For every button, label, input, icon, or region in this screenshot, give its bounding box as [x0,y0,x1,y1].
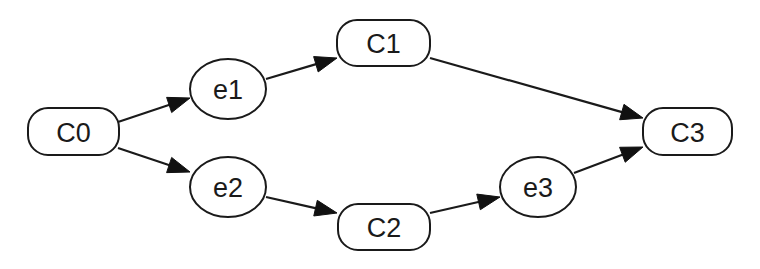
edge-c1-to-c3 [430,58,643,120]
node-c1: C1 [337,20,430,66]
edge-e2-to-c2 [266,197,337,216]
edge-c2-to-e3 [430,194,500,213]
edge-line [118,148,171,166]
node-c3: C3 [643,108,732,155]
arrowhead-icon [620,104,643,119]
edge-line [574,154,624,173]
edge-line [118,104,171,122]
edge-line [266,64,318,79]
node-e3: e3 [500,157,576,217]
edge-c0-to-e1 [118,97,190,122]
arrowhead-icon [167,97,190,112]
node-label: e3 [523,173,553,203]
nodes-layer: C0e1e2C1C2e3C3 [28,20,732,250]
node-label: C2 [367,213,402,243]
node-c0: C0 [28,108,119,155]
node-c2: C2 [338,204,430,250]
edge-line [430,58,624,113]
node-label: e1 [213,75,243,105]
edge-c0-to-e2 [118,148,190,173]
edge-line [266,197,317,209]
node-label: C0 [56,118,91,148]
edge-e3-to-c3 [574,147,643,173]
node-e1: e1 [190,59,266,119]
edge-e1-to-c1 [266,57,337,79]
edge-line [430,201,481,213]
flow-diagram: C0e1e2C1C2e3C3 [0,0,760,269]
arrowhead-icon [620,147,643,162]
node-label: C1 [366,29,401,59]
arrowhead-icon [167,157,190,172]
arrowhead-icon [314,200,337,216]
node-label: e2 [213,173,243,203]
node-e2: e2 [190,157,266,217]
arrowhead-icon [314,57,337,72]
node-label: C3 [670,118,705,148]
arrowhead-icon [477,194,500,210]
